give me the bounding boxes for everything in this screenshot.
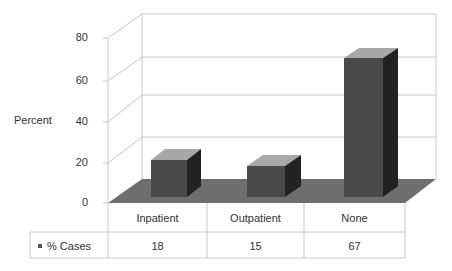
bar-outpatient bbox=[247, 155, 301, 197]
y-tick-label: 60 bbox=[64, 74, 88, 86]
value-cell-inpatient: 18 bbox=[108, 233, 207, 258]
y-tick-label: 80 bbox=[64, 31, 88, 43]
y-axis-title: Percent bbox=[14, 114, 52, 126]
legend-entry-cases: % Cases bbox=[32, 233, 108, 258]
value-cell-none: 67 bbox=[304, 233, 405, 258]
category-label-inpatient: Inpatient bbox=[108, 204, 207, 232]
y-tick-label: 40 bbox=[64, 115, 88, 127]
bar-none bbox=[344, 48, 398, 197]
value-cell-outpatient: 15 bbox=[207, 233, 304, 258]
category-label-none: None bbox=[304, 204, 405, 232]
bar-inpatient bbox=[151, 149, 201, 197]
category-label-outpatient: Outpatient bbox=[207, 204, 304, 232]
y-tick-label: 20 bbox=[64, 156, 88, 168]
legend-label: % Cases bbox=[47, 240, 91, 252]
y-tick-label: 0 bbox=[64, 196, 88, 208]
legend-swatch-icon bbox=[38, 244, 42, 248]
